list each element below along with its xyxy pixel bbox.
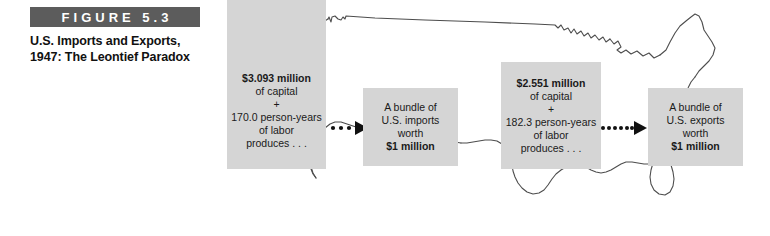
imports-output-line-3: worth	[363, 127, 458, 140]
exports-input-line-4: 182.3 person-years	[501, 116, 601, 129]
arrow-head-icon	[634, 121, 647, 135]
exports-input-line-5: of labor	[501, 129, 601, 142]
figure-container: FIGURE 5.3 U.S. Imports and Exports, 194…	[0, 0, 770, 236]
figure-caption-line-2: 1947: The Leontief Paradox	[30, 49, 220, 65]
figure-label-text: FIGURE 5.3	[58, 11, 173, 24]
figure-caption-text: U.S. Imports and Exports, 1947: The Leon…	[30, 33, 220, 65]
imports-output-line-1: A bundle of	[363, 101, 458, 114]
imports-input-line-1: $3.093 million	[227, 72, 326, 85]
imports-input-line-2: of capital	[227, 85, 326, 98]
imports-input-line-4: 170.0 person-years	[227, 111, 326, 124]
exports-input-line-1: $2.551 million	[501, 77, 601, 90]
exports-input-line-3: +	[501, 103, 601, 116]
figure-caption-line-1: U.S. Imports and Exports,	[30, 33, 220, 49]
imports-input-line-5: of labor	[227, 124, 326, 137]
imports-output-panel: A bundle of U.S. imports worth $1 millio…	[363, 88, 458, 166]
imports-input-line-3: +	[227, 98, 326, 111]
exports-output-line-4: $1 million	[648, 140, 743, 153]
figure-caption-block: FIGURE 5.3 U.S. Imports and Exports, 194…	[0, 0, 225, 236]
figure-label-bar: FIGURE 5.3	[30, 7, 200, 27]
exports-output-panel: A bundle of U.S. exports worth $1 millio…	[648, 88, 743, 166]
imports-input-panel: $3.093 million of capital + 170.0 person…	[227, 0, 326, 169]
exports-output-line-2: U.S. exports	[648, 114, 743, 127]
imports-output-line-4: $1 million	[363, 140, 458, 153]
exports-input-panel: $2.551 million of capital + 182.3 person…	[501, 62, 601, 169]
imports-output-line-2: U.S. imports	[363, 114, 458, 127]
imports-input-line-6: produces . . .	[227, 137, 326, 150]
dotted-arrow-exports	[600, 118, 650, 138]
exports-input-line-2: of capital	[501, 90, 601, 103]
exports-input-line-6: produces . . .	[501, 142, 601, 155]
arrow-dots	[331, 126, 351, 130]
arrow-dots	[601, 126, 634, 130]
exports-output-line-3: worth	[648, 127, 743, 140]
exports-output-line-1: A bundle of	[648, 101, 743, 114]
